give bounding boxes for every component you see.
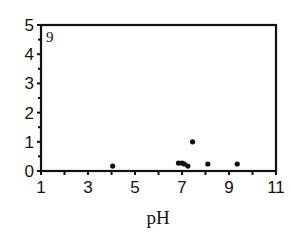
data-points [110, 139, 240, 168]
y-tick-label: 5 [25, 16, 34, 35]
data-point [190, 139, 195, 144]
x-axis: 1357911 [36, 171, 285, 197]
data-point [185, 163, 190, 168]
data-point [110, 163, 115, 168]
x-tick-label: 7 [177, 178, 186, 197]
data-point [205, 161, 210, 166]
x-tick-label: 1 [36, 178, 45, 197]
y-tick-label: 1 [25, 133, 34, 152]
y-tick-label: 0 [25, 162, 34, 181]
y-tick-label: 2 [25, 104, 34, 123]
data-point [235, 161, 240, 166]
x-tick-label: 9 [224, 178, 233, 197]
x-tick-label: 5 [130, 178, 139, 197]
x-axis-title: pH [146, 207, 170, 228]
y-tick-label: 4 [25, 45, 34, 64]
y-tick-label: 3 [25, 74, 34, 93]
x-tick-label: 11 [267, 178, 285, 197]
panel-label: 9 [46, 29, 54, 45]
plot-border [41, 25, 276, 171]
plot-frame [41, 25, 276, 171]
scatter-chart: 012345 1357911 9 pH [0, 0, 291, 235]
x-tick-label: 3 [83, 178, 92, 197]
y-axis: 012345 [25, 16, 41, 181]
